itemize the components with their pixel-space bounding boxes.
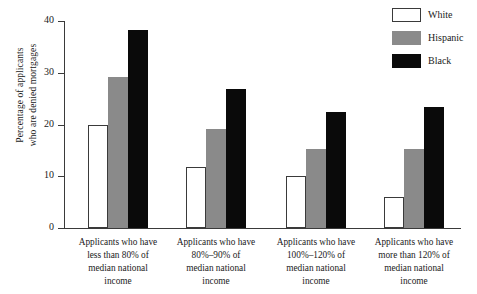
bar-black[interactable] — [326, 112, 346, 228]
bar-white[interactable] — [186, 167, 206, 228]
legend-label-black: Black — [428, 54, 451, 68]
bar-group — [88, 21, 148, 228]
x-axis-category-label: Applicants who have80%–90% ofmedian nati… — [164, 236, 268, 288]
bar-hispanic[interactable] — [206, 129, 226, 228]
y-axis-tick-label: 20 — [44, 118, 54, 130]
y-axis-title-line-2: who are denied mortgages — [27, 0, 40, 190]
x-axis-category-label: Applicants who havemore than 120% ofmedi… — [362, 236, 466, 288]
x-axis-category-label: Applicants who have100%–120% ofmedian na… — [264, 236, 368, 288]
category-label-line: income — [264, 275, 368, 288]
category-label-line: 100%–120% of — [264, 249, 368, 262]
black-swatch-icon — [392, 54, 421, 68]
category-label-line: income — [362, 275, 466, 288]
bar-black[interactable] — [226, 89, 246, 228]
bar-white[interactable] — [88, 125, 108, 229]
legend-item-black[interactable]: Black — [392, 54, 477, 71]
category-label-line: less than 80% of — [66, 249, 170, 262]
bar-group — [286, 21, 346, 228]
bar-white[interactable] — [286, 176, 306, 228]
white-swatch-icon — [392, 8, 421, 22]
y-axis-tick-label: 10 — [44, 169, 54, 181]
x-axis-line — [64, 228, 461, 229]
category-label-line: median national — [66, 262, 170, 275]
x-axis-category-labels: Applicants who haveless than 80% ofmedia… — [0, 236, 477, 294]
category-label-line: median national — [164, 262, 268, 275]
category-label-line: median national — [264, 262, 368, 275]
category-label-line: Applicants who have — [362, 236, 466, 249]
bar-black[interactable] — [128, 30, 148, 228]
category-label-line: income — [66, 275, 170, 288]
bar-black[interactable] — [424, 107, 444, 228]
y-axis-tick-label: 40 — [44, 14, 54, 26]
y-axis-tick-label: 0 — [49, 221, 54, 233]
bar-group — [186, 21, 246, 228]
y-axis-tick-label: 30 — [44, 66, 54, 78]
bar-hispanic[interactable] — [108, 77, 128, 228]
bar-hispanic[interactable] — [306, 149, 326, 228]
bar-white[interactable] — [384, 197, 404, 228]
category-label-line: median national — [362, 262, 466, 275]
gray-swatch-icon — [392, 31, 421, 45]
bar-hispanic[interactable] — [404, 149, 424, 228]
category-label-line: Applicants who have — [264, 236, 368, 249]
category-label-line: Applicants who have — [66, 236, 170, 249]
legend: White Hispanic Black — [392, 8, 477, 77]
bar-chart: Percentage of applicants who are denied … — [0, 0, 477, 294]
legend-item-hispanic[interactable]: Hispanic — [392, 31, 477, 48]
y-axis-title-line-1: Percentage of applicants — [14, 0, 27, 190]
category-label-line: more than 120% of — [362, 249, 466, 262]
y-axis-title: Percentage of applicants who are denied … — [14, 0, 48, 190]
legend-item-white[interactable]: White — [392, 8, 477, 25]
category-label-line: income — [164, 275, 268, 288]
category-label-line: Applicants who have — [164, 236, 268, 249]
x-axis-category-label: Applicants who haveless than 80% ofmedia… — [66, 236, 170, 288]
legend-label-white: White — [428, 8, 452, 22]
legend-label-hispanic: Hispanic — [428, 31, 464, 45]
category-label-line: 80%–90% of — [164, 249, 268, 262]
